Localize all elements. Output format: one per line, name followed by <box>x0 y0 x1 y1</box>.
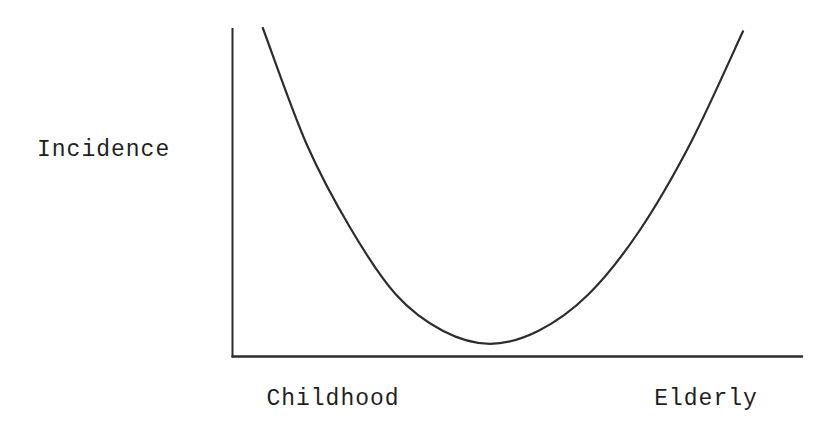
x-tick-label-elderly: Elderly <box>654 387 758 411</box>
plot-area <box>0 0 824 431</box>
incidence-curve <box>263 28 743 344</box>
x-tick-label-childhood: Childhood <box>266 387 399 411</box>
incidence-age-chart: Incidence Childhood Elderly <box>0 0 824 431</box>
